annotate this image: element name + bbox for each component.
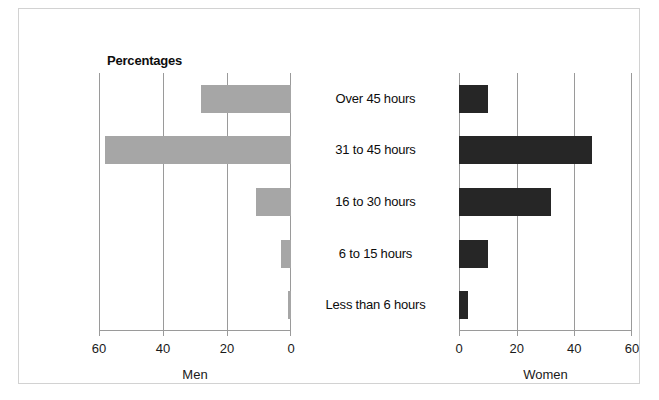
men-bar-4 bbox=[288, 291, 291, 319]
women-axis-title: Women bbox=[523, 367, 568, 382]
women-bar-0 bbox=[459, 85, 488, 113]
women-gridline-40 bbox=[574, 73, 575, 331]
men-tick-label-1: 40 bbox=[156, 341, 170, 356]
men-axis-title: Men bbox=[182, 367, 207, 382]
men-tick-0 bbox=[290, 331, 291, 336]
women-bar-1 bbox=[459, 136, 592, 164]
men-bar-2 bbox=[256, 188, 291, 216]
women-tick-label-0: 0 bbox=[455, 341, 462, 356]
category-label-4: Less than 6 hours bbox=[294, 297, 457, 312]
men-tick-20 bbox=[227, 331, 228, 336]
women-tick-label-1: 20 bbox=[509, 341, 523, 356]
men-tick-label-3: 0 bbox=[287, 341, 294, 356]
men-gridline-60 bbox=[99, 73, 100, 331]
women-tick-label-3: 60 bbox=[625, 341, 639, 356]
category-label-2: 16 to 30 hours bbox=[294, 194, 457, 209]
men-gridline-40 bbox=[163, 73, 164, 331]
men-bar-0 bbox=[201, 85, 291, 113]
men-bar-1 bbox=[105, 136, 291, 164]
men-axis-line bbox=[99, 330, 291, 331]
women-plot-area bbox=[459, 73, 632, 331]
chart-title: Percentages bbox=[107, 53, 182, 68]
women-gridline-60 bbox=[631, 73, 632, 331]
category-label-column: Over 45 hours31 to 45 hours16 to 30 hour… bbox=[294, 73, 457, 331]
men-tick-label-2: 20 bbox=[220, 341, 234, 356]
category-label-3: 6 to 15 hours bbox=[294, 246, 457, 261]
chart-page: Percentages 0204060Men Over 45 hours31 t… bbox=[0, 0, 659, 400]
men-tick-40 bbox=[163, 331, 164, 336]
women-tick-20 bbox=[517, 331, 518, 336]
category-label-1: 31 to 45 hours bbox=[294, 142, 457, 157]
women-bar-4 bbox=[459, 291, 468, 319]
category-label-0: Over 45 hours bbox=[294, 91, 457, 106]
men-tick-label-0: 60 bbox=[92, 341, 106, 356]
men-panel: 0204060Men bbox=[99, 73, 291, 331]
women-axis-line bbox=[459, 330, 632, 331]
men-bar-3 bbox=[281, 240, 291, 268]
women-bar-3 bbox=[459, 240, 488, 268]
women-tick-0 bbox=[459, 331, 460, 336]
women-bar-2 bbox=[459, 188, 551, 216]
figure-frame: Percentages 0204060Men Over 45 hours31 t… bbox=[18, 8, 640, 384]
women-panel: 0204060Women bbox=[459, 73, 632, 331]
women-tick-60 bbox=[631, 331, 632, 336]
women-tick-label-2: 40 bbox=[567, 341, 581, 356]
men-plot-area bbox=[99, 73, 291, 331]
women-tick-40 bbox=[574, 331, 575, 336]
men-tick-60 bbox=[99, 331, 100, 336]
